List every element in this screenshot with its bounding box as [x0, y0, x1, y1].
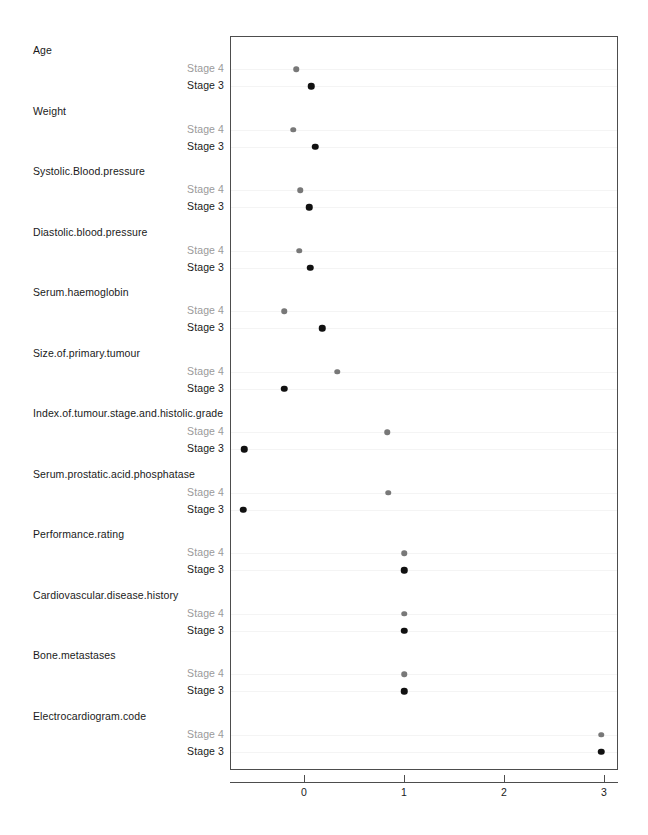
stage-3-label: Stage 3 — [187, 261, 224, 273]
stage-3-label: Stage 3 — [187, 503, 224, 515]
variable-label: Electrocardiogram.code — [33, 710, 146, 722]
data-point-stage-3 — [308, 83, 315, 90]
stage-3-label: Stage 3 — [187, 563, 224, 575]
variable-label: Index.of.tumour.stage.and.histolic.grade — [33, 407, 223, 419]
guide-band — [231, 493, 617, 494]
guide-band — [231, 735, 617, 736]
guide-band — [231, 86, 617, 87]
stage-4-label: Stage 4 — [187, 62, 224, 74]
variable-label: Cardiovascular.disease.history — [33, 589, 178, 601]
guide-band — [231, 207, 617, 208]
stage-3-label: Stage 3 — [187, 321, 224, 333]
guide-band — [231, 691, 617, 692]
stage-3-label: Stage 3 — [187, 442, 224, 454]
guide-band — [231, 510, 617, 511]
variable-label: Age — [33, 44, 52, 56]
variable-label: Weight — [33, 105, 66, 117]
data-point-stage-4 — [296, 248, 302, 254]
stage-3-label: Stage 3 — [187, 200, 224, 212]
dot-plot-figure: AgeWeightSystolic.Blood.pressureDiastoli… — [0, 0, 648, 835]
data-point-stage-4 — [281, 308, 287, 314]
x-axis-tick — [604, 775, 605, 783]
data-point-stage-3 — [306, 204, 313, 211]
stage-4-label: Stage 4 — [187, 667, 224, 679]
guide-band — [231, 614, 617, 615]
data-point-stage-4 — [401, 550, 407, 556]
x-axis-line — [230, 782, 618, 783]
data-point-stage-3 — [401, 688, 408, 695]
stage-4-label: Stage 4 — [187, 607, 224, 619]
stage-4-label: Stage 4 — [187, 486, 224, 498]
guide-band — [231, 147, 617, 148]
guide-band — [231, 130, 617, 131]
variable-label: Performance.rating — [33, 528, 124, 540]
data-point-stage-4 — [385, 490, 391, 496]
guide-band — [231, 570, 617, 571]
stage-4-label: Stage 4 — [187, 244, 224, 256]
data-point-stage-3 — [598, 748, 605, 755]
data-point-stage-4 — [334, 369, 340, 375]
guide-band — [231, 553, 617, 554]
stage-3-label: Stage 3 — [187, 140, 224, 152]
stage-4-label: Stage 4 — [187, 304, 224, 316]
stage-3-label: Stage 3 — [187, 745, 224, 757]
data-point-stage-3 — [319, 325, 326, 332]
data-point-stage-4 — [297, 187, 303, 193]
guide-band — [231, 311, 617, 312]
x-axis-tick — [404, 775, 405, 783]
guide-band — [231, 752, 617, 753]
data-point-stage-3 — [307, 264, 314, 271]
data-point-stage-4 — [401, 671, 407, 677]
x-axis-tick-label: 0 — [301, 786, 307, 798]
stage-3-label: Stage 3 — [187, 624, 224, 636]
stage-4-label: Stage 4 — [187, 425, 224, 437]
variable-label: Diastolic.blood.pressure — [33, 226, 147, 238]
guide-band — [231, 631, 617, 632]
variable-label: Serum.haemoglobin — [33, 286, 129, 298]
data-point-stage-3 — [281, 385, 288, 392]
data-point-stage-4 — [384, 429, 390, 435]
guide-band — [231, 389, 617, 390]
data-point-stage-3 — [240, 506, 247, 513]
data-point-stage-3 — [401, 567, 408, 574]
variable-label: Serum.prostatic.acid.phosphatase — [33, 468, 195, 480]
variable-label: Size.of.primary.tumour — [33, 347, 140, 359]
guide-band — [231, 69, 617, 70]
x-axis-tick-label: 2 — [501, 786, 507, 798]
guide-band — [231, 251, 617, 252]
x-axis-tick-label: 1 — [401, 786, 407, 798]
variable-label: Bone.metastases — [33, 649, 116, 661]
data-point-stage-4 — [293, 66, 299, 72]
data-point-stage-4 — [401, 611, 407, 617]
data-point-stage-3 — [241, 446, 248, 453]
guide-band — [231, 328, 617, 329]
data-point-stage-4 — [290, 127, 296, 133]
stage-4-label: Stage 4 — [187, 546, 224, 558]
data-point-stage-3 — [312, 143, 319, 150]
data-point-stage-3 — [401, 627, 408, 634]
stage-3-label: Stage 3 — [187, 382, 224, 394]
guide-band — [231, 372, 617, 373]
x-axis-tick — [304, 775, 305, 783]
stage-4-label: Stage 4 — [187, 365, 224, 377]
stage-3-label: Stage 3 — [187, 684, 224, 696]
x-axis-tick-label: 3 — [601, 786, 607, 798]
stage-4-label: Stage 4 — [187, 123, 224, 135]
guide-band — [231, 674, 617, 675]
guide-band — [231, 432, 617, 433]
data-point-stage-4 — [598, 732, 604, 738]
x-axis-tick — [504, 775, 505, 783]
guide-band — [231, 190, 617, 191]
guide-band — [231, 268, 617, 269]
guide-band — [231, 449, 617, 450]
variable-label: Systolic.Blood.pressure — [33, 165, 145, 177]
stage-3-label: Stage 3 — [187, 79, 224, 91]
stage-4-label: Stage 4 — [187, 728, 224, 740]
stage-4-label: Stage 4 — [187, 183, 224, 195]
